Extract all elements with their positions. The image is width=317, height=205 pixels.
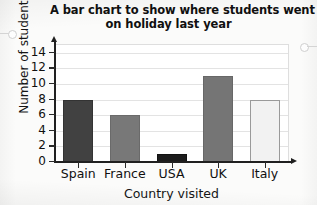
y-tick-label: 6 (24, 108, 46, 120)
x-axis-arrow-icon (291, 158, 297, 164)
y-tick-label: 14 (24, 46, 46, 58)
y-tick-label: 8 (24, 93, 46, 105)
y-tick-mark (49, 145, 55, 146)
chart-page: A bar chart to show where students went … (0, 0, 317, 205)
y-tick-mark (49, 114, 55, 115)
y-tick-mark (49, 67, 55, 68)
y-tick-label: 10 (24, 77, 46, 89)
y-tick-mark (49, 161, 55, 162)
binder-ring-mark-right (300, 43, 317, 51)
plot-area (55, 44, 289, 162)
y-tick-mark (49, 99, 55, 100)
y-tick-label: 0 (24, 155, 46, 167)
y-tick-label: 12 (24, 61, 46, 73)
x-tick-label-italy: Italy (225, 168, 305, 181)
bar-spain (63, 100, 93, 162)
gridline (55, 84, 288, 85)
chart-title-line-2: on holiday last year (38, 17, 317, 31)
y-tick-mark (49, 83, 55, 84)
binder-ring-circle-left (8, 30, 17, 39)
x-axis-line (54, 161, 293, 163)
binder-ring-mark-left (0, 30, 16, 38)
gridline (55, 53, 288, 54)
bar-italy (250, 100, 280, 162)
y-tick-mark (49, 130, 55, 131)
binder-ring-line-right (307, 46, 317, 47)
x-axis-title: Country visited (55, 186, 288, 201)
chart-title-line-1: A bar chart to show where students went (38, 3, 317, 17)
y-tick-label: 2 (24, 139, 46, 151)
gridline (55, 68, 288, 69)
binder-ring-line-left (0, 33, 9, 34)
binder-ring-circle-right (300, 43, 309, 52)
y-tick-mark (49, 52, 55, 53)
chart-title: A bar chart to show where students went … (38, 3, 317, 31)
bar-uk (203, 76, 233, 162)
y-tick-label: 4 (24, 124, 46, 136)
bar-france (110, 115, 140, 162)
y-axis-arrow-icon (51, 36, 57, 42)
